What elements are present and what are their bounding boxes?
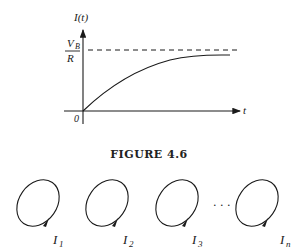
loop-2: I 2: [77, 172, 137, 249]
current-graph: I(t) t 0 V B R: [64, 11, 247, 124]
loop-n: I n: [227, 172, 291, 249]
loop-1: I 1: [8, 172, 68, 249]
x-axis-label: t: [243, 104, 247, 116]
svg-text:1: 1: [59, 239, 64, 249]
svg-text:B: B: [75, 42, 80, 51]
svg-text:I: I: [191, 232, 197, 247]
figure-canvas: I(t) t 0 V B R FIGURE 4.6 I 1 I 2 I 3: [0, 0, 298, 252]
svg-text:3: 3: [197, 239, 203, 249]
svg-text:V: V: [67, 37, 75, 49]
svg-text:I: I: [122, 232, 128, 247]
loop-3: I 3: [147, 172, 207, 249]
current-curve: [83, 55, 230, 111]
svg-text:n: n: [286, 239, 291, 249]
y-axis-label: I(t): [73, 11, 88, 24]
svg-text:2: 2: [129, 239, 134, 249]
origin-label: 0: [74, 113, 79, 124]
asymptote-label: V B R: [65, 37, 80, 64]
svg-text:R: R: [66, 52, 74, 64]
svg-text:I: I: [52, 232, 58, 247]
current-loops: I 1 I 2 I 3 . . . I n: [8, 172, 291, 249]
figure-caption: FIGURE 4.6: [110, 148, 187, 161]
svg-text:I: I: [279, 232, 285, 247]
ellipsis: . . .: [213, 196, 230, 209]
